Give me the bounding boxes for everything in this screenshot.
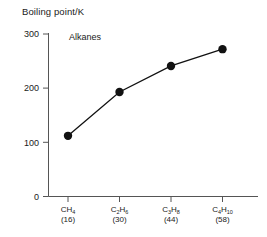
x-tick-label-4: C4H10 [212,205,233,215]
data-point-C2H6 [115,88,123,96]
x-tick-label-1: CH4 [61,205,76,215]
x-tick-label-3: C3H8 [162,205,180,215]
series-line [68,49,223,136]
y-tick-label-100: 100 [24,138,39,148]
x-mass-label-2: (30) [112,215,127,224]
y-tick-label-300: 300 [24,29,39,39]
y-tick-label-200: 200 [24,83,39,93]
plot-area: 0 100 200 300 CH4 (16) C2H6 (30) C3H8 (4… [0,0,267,237]
x-tick-label-2: C2H6 [111,205,129,215]
data-point-C3H8 [167,62,175,70]
x-mass-label-3: (44) [164,215,179,224]
series-points-group [64,45,227,140]
boiling-point-chart: Boiling point/K Alkanes 0 100 200 300 CH… [0,0,267,237]
y-tick-label-0: 0 [34,192,39,202]
x-mass-label-1: (16) [61,215,76,224]
data-point-CH4 [64,132,72,140]
data-point-C4H10 [218,45,226,53]
x-mass-label-4: (58) [215,215,230,224]
formula-main-1: CH [61,205,73,214]
